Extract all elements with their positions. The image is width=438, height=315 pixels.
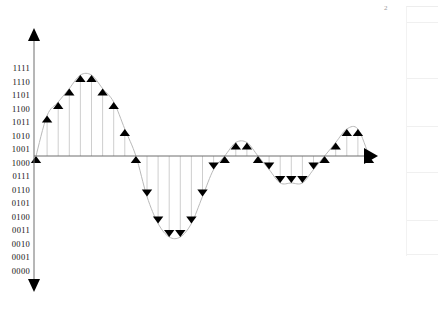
panel-row xyxy=(407,79,438,127)
y-axis-arrow-up-icon xyxy=(28,28,40,41)
data-point-marker xyxy=(64,89,74,96)
data-point-marker xyxy=(153,217,163,224)
data-point-marker xyxy=(142,190,152,197)
data-point-marker xyxy=(264,163,274,170)
data-point-marker xyxy=(286,176,296,183)
data-point-marker xyxy=(253,156,263,163)
data-point-marker xyxy=(197,190,207,197)
data-point-marker xyxy=(109,102,119,109)
panel-row xyxy=(407,221,438,255)
panel-row xyxy=(407,7,438,23)
data-point-marker xyxy=(208,163,218,170)
data-point-marker xyxy=(31,156,41,163)
y-axis-arrow-down-icon xyxy=(28,279,40,292)
stem-plot xyxy=(0,0,438,315)
data-point-marker xyxy=(319,156,329,163)
side-panel xyxy=(406,6,438,256)
panel-row xyxy=(407,23,438,79)
data-point-marker xyxy=(331,143,341,150)
data-point-marker xyxy=(131,156,141,163)
data-point-marker xyxy=(353,129,363,136)
panel-row xyxy=(407,127,438,173)
data-point-marker xyxy=(308,163,318,170)
screenshot-root: 2 1111 1110 1101 1100 1011 1010 1001 100… xyxy=(0,0,438,315)
data-point-marker xyxy=(42,116,52,123)
data-point-marker xyxy=(186,217,196,224)
panel-row xyxy=(407,173,438,221)
data-point-marker xyxy=(120,129,130,136)
